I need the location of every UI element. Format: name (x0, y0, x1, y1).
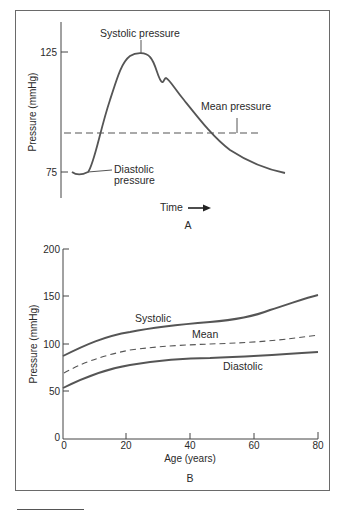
panel-a: 125 75 Pressure (mmHg) Systolic pressure… (27, 22, 285, 231)
panel-b-ytick-label-0: 0 (54, 432, 60, 443)
panel-a-x-label: Time (160, 201, 183, 213)
figure-svg: 125 75 Pressure (mmHg) Systolic pressure… (0, 0, 343, 511)
panel-b-xtick-label-0: 0 (61, 440, 67, 451)
panel-b-y-label: Pressure (mmHg) (28, 305, 39, 384)
panel-b-xtick-label-80: 80 (312, 440, 324, 451)
panel-a-tick-label-125: 125 (40, 47, 57, 58)
panel-b-xtick-label-40: 40 (184, 440, 196, 451)
panel-a-label: A (184, 219, 191, 231)
panel-b-ytick-label-100: 100 (43, 339, 60, 350)
systolic-curve (63, 295, 318, 356)
panel-b-xtick-label-20: 20 (120, 440, 132, 451)
panel-b-x-label: Age (years) (164, 453, 216, 464)
label-mean-pressure: Mean pressure (201, 100, 271, 112)
panel-b-label: B (186, 472, 193, 484)
label-diastolic: Diastolic (223, 360, 263, 372)
label-systolic-pressure: Systolic pressure (100, 27, 180, 39)
panel-b-ytick-label-150: 150 (43, 291, 60, 302)
arrow-right-icon (188, 205, 211, 212)
panel-b-xtick-label-60: 60 (248, 440, 260, 451)
label-systolic: Systolic (135, 312, 171, 324)
panel-b-ytick-label-50: 50 (49, 386, 61, 397)
panel-a-tick-label-75: 75 (46, 167, 58, 178)
panel-a-pressure-curve (72, 53, 285, 174)
label-diastolic-2: pressure (114, 174, 155, 186)
panel-a-y-label: Pressure (mmHg) (27, 73, 38, 152)
panel-b-ytick-label-200: 200 (43, 244, 60, 255)
panel-b-axes (63, 249, 318, 439)
label-mean: Mean (192, 328, 218, 340)
panel-b: 200 150 100 50 0 0 20 40 60 80 Pressure … (28, 244, 324, 484)
diastolic-leader (88, 170, 112, 172)
